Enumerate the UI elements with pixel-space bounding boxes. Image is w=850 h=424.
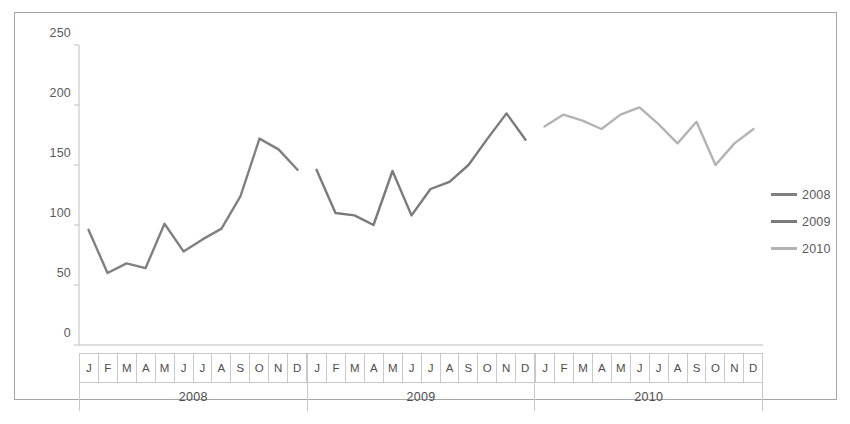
x-axis-year-2010: 2010 (534, 383, 763, 411)
legend-item-2010[interactable]: 2010 (771, 235, 847, 262)
x-axis-month-2010-july: J (649, 353, 668, 383)
y-axis-tick-label-200: 200 (37, 87, 71, 99)
x-axis-month-2008-february: F (98, 353, 117, 383)
x-axis-month-2010-september: S (687, 353, 706, 383)
y-axis-tick-label-0: 0 (37, 327, 71, 339)
x-axis-month-2010-august: A (668, 353, 687, 383)
x-axis-year-2008: 2008 (79, 383, 307, 411)
y-axis-tick-label-50: 50 (37, 267, 71, 279)
x-axis-year-labels: 200820092010 (79, 383, 763, 411)
x-axis-month-2008-january: J (79, 353, 98, 383)
legend-label-2008: 2008 (802, 188, 831, 202)
legend: 200820092010 (771, 181, 847, 262)
x-axis-month-2009-february: F (326, 353, 345, 383)
x-axis-month-2008-november: N (268, 353, 287, 383)
x-axis-month-2009-january: J (307, 353, 326, 383)
chart-frame: 250200150100500 JFMAMJJASONDJFMAMJJASOND… (14, 12, 837, 400)
x-axis-month-2009-june: J (402, 353, 421, 383)
legend-label-2009: 2009 (802, 215, 831, 229)
x-axis-month-2010-december: D (743, 353, 763, 383)
x-axis-month-2010-may: M (611, 353, 630, 383)
plot-area (79, 45, 763, 345)
x-axis-month-2008-march: M (117, 353, 136, 383)
x-axis-month-2008-december: D (287, 353, 307, 383)
x-axis-year-2009: 2009 (307, 383, 535, 411)
x-axis-month-2008-april: A (136, 353, 155, 383)
x-axis-month-2009-august: A (440, 353, 459, 383)
x-axis-month-2009-march: M (345, 353, 364, 383)
x-axis-month-2009-december: D (515, 353, 535, 383)
legend-item-2009[interactable]: 2009 (771, 208, 847, 235)
y-axis-tick-label-100: 100 (37, 207, 71, 219)
x-axis-month-2009-september: S (458, 353, 477, 383)
x-axis-month-2008-august: A (211, 353, 230, 383)
x-axis-month-2008-may: M (155, 353, 174, 383)
x-axis-month-2009-november: N (496, 353, 515, 383)
x-axis-month-2008-october: O (249, 353, 268, 383)
legend-item-2008[interactable]: 2008 (771, 181, 847, 208)
y-axis-tick-label-150: 150 (37, 147, 71, 159)
x-axis-month-2010-november: N (724, 353, 743, 383)
x-axis-month-2010-february: F (554, 353, 573, 383)
y-axis-tick-label-250: 250 (37, 27, 71, 39)
x-axis-month-2010-march: M (573, 353, 592, 383)
x-axis-month-2009-april: A (364, 353, 383, 383)
legend-swatch-icon-2009 (771, 220, 797, 223)
x-axis-month-2009-may: M (383, 353, 402, 383)
x-axis-month-2010-january: J (535, 353, 554, 383)
legend-swatch-icon-2010 (771, 247, 797, 250)
x-axis-month-2010-april: A (592, 353, 611, 383)
x-axis-month-labels: JFMAMJJASONDJFMAMJJASONDJFMAMJJASOND (79, 353, 763, 383)
x-axis-month-2008-june: J (174, 353, 193, 383)
x-axis-month-2010-october: O (705, 353, 724, 383)
x-axis-month-2009-july: J (421, 353, 440, 383)
x-axis-month-2008-september: S (230, 353, 249, 383)
legend-swatch-icon-2008 (771, 193, 797, 196)
x-axis-month-2009-october: O (477, 353, 496, 383)
x-axis-month-2010-june: J (630, 353, 649, 383)
y-axis: 250200150100500 (33, 13, 71, 401)
legend-label-2010: 2010 (802, 242, 831, 256)
x-axis-month-2008-july: J (193, 353, 212, 383)
